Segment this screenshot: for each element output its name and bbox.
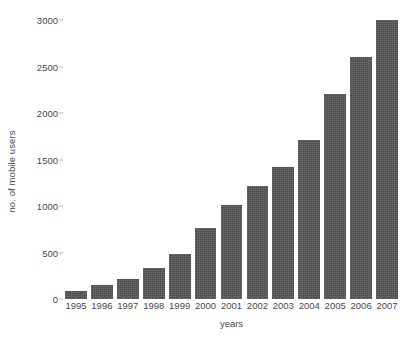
- bar: [247, 186, 269, 299]
- x-tick-label: 2001: [219, 300, 245, 316]
- x-tick-label: 2002: [244, 300, 270, 316]
- bar: [195, 228, 217, 299]
- y-tick-mark: [59, 113, 63, 114]
- x-tick-label: 1998: [141, 300, 167, 316]
- bar-chart-figure: no. of mobile users 05001000150020002500…: [0, 0, 411, 343]
- bar-slot: [219, 20, 245, 299]
- y-tick-mark: [59, 159, 63, 160]
- bar-slot: [115, 20, 141, 299]
- x-tick-label: 2006: [348, 300, 374, 316]
- bar-slot: [270, 20, 296, 299]
- x-tick-label: 2000: [193, 300, 219, 316]
- bar: [117, 279, 139, 299]
- bar: [350, 57, 372, 299]
- y-tick-label: 0: [53, 294, 58, 305]
- y-axis-tick-labels: 050010001500200025003000: [22, 0, 58, 343]
- y-tick-label: 500: [42, 247, 58, 258]
- bar-slot: [244, 20, 270, 299]
- bars-layer: [63, 20, 400, 299]
- bar: [376, 20, 398, 299]
- x-tick-label: 2004: [296, 300, 322, 316]
- x-tick-label: 1997: [115, 300, 141, 316]
- bar: [272, 167, 294, 299]
- bar-slot: [167, 20, 193, 299]
- y-tick-mark: [59, 206, 63, 207]
- bar-slot: [348, 20, 374, 299]
- y-tick-label: 2000: [37, 108, 58, 119]
- bar: [91, 285, 113, 299]
- x-tick-label: 1999: [167, 300, 193, 316]
- x-axis-tick-labels: 1995199619971998199920002001200220032004…: [63, 300, 400, 316]
- bar-slot: [374, 20, 400, 299]
- y-tick-label: 3000: [37, 15, 58, 26]
- y-tick-mark: [59, 66, 63, 67]
- y-tick-mark: [59, 20, 63, 21]
- bar-slot: [193, 20, 219, 299]
- x-tick-label: 2005: [322, 300, 348, 316]
- bar: [65, 291, 87, 299]
- x-axis-title: years: [63, 318, 400, 329]
- bar: [143, 268, 165, 299]
- y-tick-label: 1000: [37, 201, 58, 212]
- bar-slot: [141, 20, 167, 299]
- bar: [298, 140, 320, 299]
- x-tick-label: 2003: [270, 300, 296, 316]
- bar: [169, 254, 191, 299]
- bar-slot: [322, 20, 348, 299]
- y-tick-label: 1500: [37, 154, 58, 165]
- x-tick-label: 1996: [89, 300, 115, 316]
- y-axis-title: no. of mobile users: [0, 0, 22, 343]
- x-tick-label: 2007: [374, 300, 400, 316]
- bar: [324, 94, 346, 299]
- bar-slot: [63, 20, 89, 299]
- bar: [221, 205, 243, 299]
- y-tick-mark: [59, 252, 63, 253]
- bar-slot: [89, 20, 115, 299]
- plot-area: [63, 20, 400, 299]
- y-tick-label: 2500: [37, 61, 58, 72]
- x-tick-label: 1995: [63, 300, 89, 316]
- y-tick-mark: [59, 299, 63, 300]
- bar-slot: [296, 20, 322, 299]
